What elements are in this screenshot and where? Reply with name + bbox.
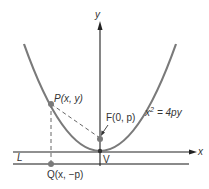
equation-exponent: 2 [149, 106, 154, 113]
point-v-label: V [103, 154, 110, 165]
point-v [98, 149, 102, 153]
point-f-label: F(0, p) [106, 112, 135, 123]
equation-label: x2= 4py [144, 106, 183, 118]
directrix-label: L [17, 152, 23, 163]
y-axis-arrow-icon [98, 21, 103, 30]
point-p-label: P(x, y) [54, 93, 83, 104]
x-axis-arrow-icon [189, 150, 197, 155]
x-axis-label: x [197, 146, 204, 157]
equation-rhs: = 4py [157, 107, 183, 118]
point-q-label: Q(x, −p) [47, 169, 83, 180]
segment-pf [51, 104, 100, 138]
y-axis-label: y [94, 9, 101, 20]
focus-pointer-arrow-icon [101, 131, 105, 137]
point-q [48, 161, 54, 167]
parabola-diagram: y x P(x, y) F(0, p) V Q(x, −p) L x2= 4py [0, 0, 209, 189]
point-f [97, 136, 103, 142]
